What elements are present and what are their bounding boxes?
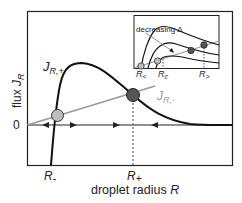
- inset-rgreater-point: [201, 42, 207, 48]
- inset-rless-label: R<: [136, 69, 147, 80]
- rminus-fixed-point: [52, 110, 64, 122]
- arrow-left-icon: [42, 122, 49, 128]
- arrow-right-icon: [70, 122, 77, 128]
- inset-stable-point: [188, 47, 194, 53]
- inset-unstable-point: [154, 58, 160, 64]
- jminus-label: JR,-: [156, 89, 175, 105]
- rplus-fixed-point: [127, 89, 140, 102]
- y-axis-label: flux JR: [10, 73, 26, 108]
- jplus-label: JR,+: [42, 59, 64, 76]
- inset-panel: decreasing Δ R< Rc R>: [134, 16, 219, 81]
- rplus-label: R+: [127, 169, 142, 184]
- arrow-right-icon: [113, 122, 120, 128]
- zero-label: 0: [13, 118, 20, 132]
- inset-rgreater-label: R>: [199, 69, 210, 80]
- arrow-left-icon: [151, 122, 158, 128]
- flux-diagram: JR,+ JR,- flux JR 0 R- R+ droplet radius…: [0, 0, 242, 203]
- inset-frame: [134, 16, 219, 69]
- inset-annotation: decreasing Δ: [136, 25, 183, 34]
- inset-rc-label: Rc: [158, 69, 169, 80]
- x-axis-label: droplet radius R: [91, 183, 179, 197]
- rminus-label: R-: [44, 169, 57, 184]
